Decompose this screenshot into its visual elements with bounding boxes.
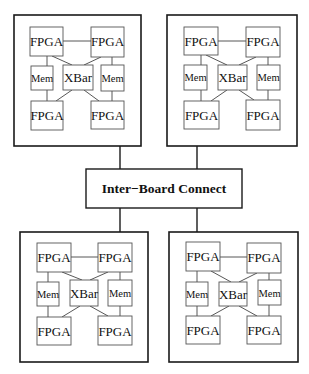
fpga-multiboard-diagram: Inter−Board Connect FPGA FPGA Mem XBar M… [0, 0, 309, 374]
svg-text:XBar: XBar [64, 70, 93, 85]
board-top-right: FPGA FPGA Mem XBar Mem FPGA FPGA [167, 15, 297, 146]
fpga-bottom-right: FPGA [246, 100, 280, 130]
svg-text:Mem: Mem [184, 72, 206, 83]
board-bottom-left: FPGA FPGA Mem XBar Mem FPGA FPGA [20, 232, 148, 362]
svg-text:FPGA: FPGA [247, 323, 281, 338]
inter-board-connect-label: Inter−Board Connect [102, 181, 227, 196]
fpga-bottom-right: FPGA [91, 101, 125, 129]
mem-left: Mem [37, 282, 59, 306]
svg-text:Mem: Mem [109, 288, 131, 299]
svg-text:Mem: Mem [101, 73, 123, 84]
fpga-top-right: FPGA [246, 27, 280, 57]
xbar: XBar [218, 65, 247, 90]
svg-text:Mem: Mem [258, 288, 280, 299]
svg-text:Mem: Mem [37, 289, 59, 300]
svg-text:FPGA: FPGA [30, 108, 64, 123]
fpga-bottom-left: FPGA [37, 317, 71, 345]
svg-text:FPGA: FPGA [186, 249, 220, 264]
mem-right: Mem [101, 65, 124, 91]
fpga-top-right: FPGA [247, 243, 281, 273]
svg-text:XBar: XBar [70, 286, 99, 301]
svg-text:FPGA: FPGA [37, 324, 71, 339]
board-bottom-right: FPGA FPGA Mem XBar Mem FPGA FPGA [169, 232, 298, 362]
fpga-bottom-left: FPGA [30, 101, 64, 130]
inter-board-connect: Inter−Board Connect [86, 169, 242, 208]
svg-text:XBar: XBar [218, 70, 247, 85]
xbar: XBar [63, 65, 93, 90]
mem-right: Mem [108, 280, 132, 306]
svg-text:FPGA: FPGA [98, 250, 132, 265]
svg-text:FPGA: FPGA [37, 250, 71, 265]
fpga-top-left: FPGA [30, 27, 64, 56]
fpga-bottom-left: FPGA [184, 101, 219, 129]
xbar: XBar [70, 280, 99, 306]
fpga-bottom-right: FPGA [247, 316, 281, 344]
fpga-top-left: FPGA [186, 242, 220, 271]
board-top-left: FPGA FPGA Mem XBar Mem FPGA FPGA [14, 15, 141, 146]
fpga-bottom-left: FPGA [186, 316, 220, 344]
svg-text:Mem: Mem [186, 289, 208, 300]
svg-text:Mem: Mem [31, 73, 53, 84]
svg-text:FPGA: FPGA [184, 34, 218, 49]
xbar: XBar [219, 282, 248, 306]
fpga-bottom-right: FPGA [98, 316, 132, 345]
fpga-top-left: FPGA [37, 243, 71, 272]
mem-right: Mem [258, 280, 281, 305]
svg-text:Mem: Mem [257, 72, 279, 83]
svg-text:XBar: XBar [219, 287, 248, 302]
svg-text:FPGA: FPGA [98, 324, 132, 339]
fpga-top-left: FPGA [184, 27, 218, 55]
svg-text:FPGA: FPGA [91, 108, 125, 123]
fpga-top-right: FPGA [98, 243, 132, 272]
mem-left: Mem [186, 282, 208, 306]
svg-text:FPGA: FPGA [247, 250, 281, 265]
svg-text:FPGA: FPGA [30, 34, 64, 49]
mem-left: Mem [31, 66, 53, 90]
svg-text:FPGA: FPGA [186, 323, 220, 338]
svg-text:FPGA: FPGA [246, 34, 280, 49]
mem-right: Mem [257, 65, 280, 90]
fpga-top-right: FPGA [91, 27, 125, 57]
svg-text:FPGA: FPGA [246, 108, 280, 123]
svg-text:FPGA: FPGA [91, 34, 125, 49]
svg-text:FPGA: FPGA [185, 108, 219, 123]
mem-left: Mem [184, 65, 207, 90]
